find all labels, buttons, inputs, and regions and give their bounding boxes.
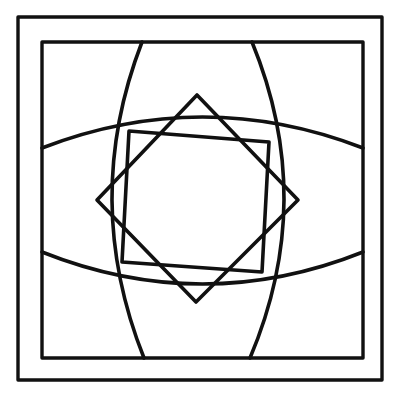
canvas-background bbox=[0, 0, 398, 400]
drawing-canvas bbox=[0, 0, 398, 400]
geometric-figure bbox=[0, 0, 398, 400]
